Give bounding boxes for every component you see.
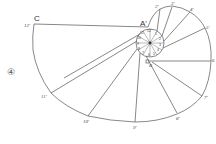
point-a-prime-label: A'	[140, 19, 147, 28]
svg-text:6: 6	[148, 53, 150, 57]
svg-text:2': 2'	[155, 4, 160, 9]
svg-text:11: 11	[140, 31, 144, 35]
svg-text:8: 8	[138, 47, 140, 51]
point-b-label: B	[149, 63, 152, 68]
svg-text:10: 10	[137, 36, 141, 40]
svg-text:4': 4'	[190, 7, 195, 12]
svg-text:7: 7	[142, 51, 144, 55]
svg-text:3: 3	[159, 43, 161, 47]
svg-text:5: 5	[153, 52, 155, 56]
svg-text:10': 10'	[83, 119, 90, 124]
svg-text:12': 12'	[24, 23, 31, 28]
svg-text:6: 6	[212, 58, 215, 63]
svg-text:11': 11'	[41, 94, 48, 99]
point-c-label: C	[34, 14, 40, 23]
svg-text:9': 9'	[133, 125, 138, 130]
involute-diagram: 1 2 3 4 5 6 7 8 9 10 11 12 C A' B 2' 3'	[0, 0, 216, 144]
svg-text:7': 7'	[204, 95, 209, 100]
svg-text:9: 9	[137, 42, 139, 46]
svg-text:4: 4	[157, 48, 159, 52]
involute-labels: 2' 3' 4' 5' 6 7' 8' 9' 10' 11' 12'	[24, 1, 215, 130]
svg-text:2: 2	[159, 37, 161, 41]
step-number: ④	[7, 67, 15, 77]
svg-text:1: 1	[155, 32, 157, 36]
involute-curve	[33, 6, 211, 122]
svg-text:12: 12	[147, 29, 151, 33]
tangent-lines	[34, 7, 211, 122]
svg-text:8': 8'	[176, 116, 181, 121]
svg-text:3': 3'	[171, 1, 176, 6]
svg-text:5': 5'	[206, 25, 211, 30]
